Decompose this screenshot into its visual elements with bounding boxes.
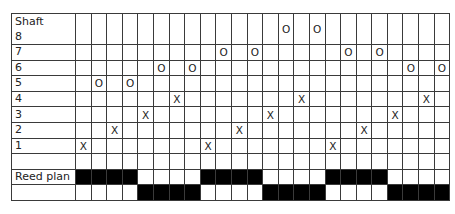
grid-cell [200,14,216,45]
grid-cell [231,14,247,45]
reed-plan-row-top: Reed plan [12,169,450,185]
threading-mark: X [356,122,372,138]
grid-cell [231,45,247,61]
grid-cell [107,14,123,45]
grid-cell [122,60,138,76]
grid-cell [122,14,138,45]
row-label: 4 [12,91,76,107]
shaft-row: 2XXX [12,122,450,138]
grid-cell [107,107,123,123]
grid-cell [138,76,154,92]
grid-cell [387,138,403,154]
grid-cell [107,91,123,107]
grid-cell [419,107,435,123]
grid-cell [91,91,107,107]
threading-mark: X [325,138,341,154]
reed-dent-filled [294,185,310,201]
grid-cell [169,138,185,154]
grid-cell [372,122,388,138]
grid-cell [153,76,169,92]
grid-cell [278,107,294,123]
reed-dent-filled [356,169,372,185]
grid-cell [387,122,403,138]
threading-mark: O [153,60,169,76]
grid-cell [200,45,216,61]
reed-dent-filled [153,185,169,201]
threading-mark: O [434,60,450,76]
reed-dent-empty [138,169,154,185]
grid-cell [122,122,138,138]
threading-mark: O [278,14,294,45]
reed-dent-empty [278,169,294,185]
reed-dent-filled [372,169,388,185]
grid-cell [434,76,450,92]
grid-cell [153,107,169,123]
grid-cell [434,122,450,138]
grid-cell [341,154,357,170]
grid-cell [278,60,294,76]
grid-cell [341,138,357,154]
reed-dent-empty [91,185,107,201]
grid-cell [76,76,92,92]
grid-cell [294,138,310,154]
threading-mark: X [200,138,216,154]
grid-cell [76,107,92,123]
reed-dent-filled [185,185,201,201]
shaft-row: 6OOOO [12,60,450,76]
grid-cell [278,138,294,154]
grid-cell [231,60,247,76]
reed-dent-empty [153,169,169,185]
threading-mark: O [341,45,357,61]
reed-dent-empty [309,169,325,185]
row-label: 8 [15,29,75,44]
grid-cell [356,91,372,107]
threading-mark: O [122,76,138,92]
reed-dent-empty [434,169,450,185]
reed-dent-empty [216,185,232,201]
grid-cell [294,154,310,170]
grid-cell [153,154,169,170]
grid-cell [387,154,403,170]
grid-cell [185,76,201,92]
grid-cell [76,122,92,138]
reed-dent-empty [122,185,138,201]
grid-cell [403,76,419,92]
reed-dent-filled [325,169,341,185]
grid-cell [356,107,372,123]
grid-cell [325,107,341,123]
grid-cell [294,60,310,76]
reed-plan-row-bottom [12,185,450,201]
reed-dent-filled [278,185,294,201]
grid-cell [309,45,325,61]
grid-cell [278,91,294,107]
reed-dent-empty [263,169,279,185]
grid-cell [76,91,92,107]
reed-dent-filled [403,185,419,201]
threading-mark: O [372,45,388,61]
grid-cell [185,154,201,170]
grid-cell [185,122,201,138]
threading-mark: X [169,91,185,107]
grid-cell [138,14,154,45]
threading-mark: X [294,91,310,107]
threading-mark: O [309,14,325,45]
grid-cell [247,91,263,107]
reed-dent-filled [76,169,92,185]
grid-cell [309,154,325,170]
grid-cell [387,14,403,45]
row-label [12,154,76,170]
grid-cell [341,60,357,76]
grid-cell [76,154,92,170]
reed-dent-empty [419,169,435,185]
grid-cell [169,45,185,61]
reed-dent-filled [263,185,279,201]
grid-cell [91,138,107,154]
grid-cell [138,60,154,76]
grid-cell [294,122,310,138]
grid-cell [372,138,388,154]
grid-cell [231,154,247,170]
grid-cell [372,91,388,107]
threading-mark: X [263,107,279,123]
grid-cell [403,122,419,138]
grid-cell [216,138,232,154]
